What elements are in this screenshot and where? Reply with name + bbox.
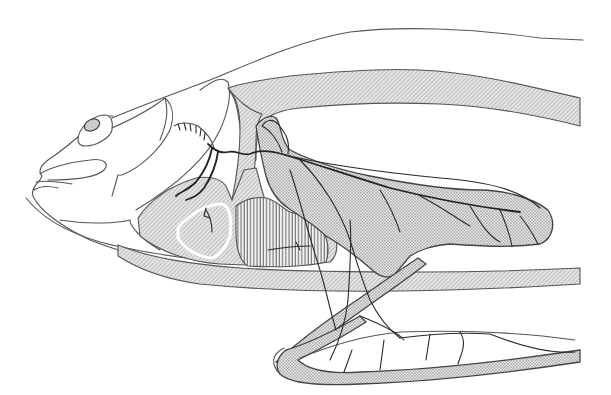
opercle-line — [160, 98, 167, 140]
coil-segments — [178, 123, 205, 140]
lower-lip — [34, 181, 72, 190]
anatomical-figure — [0, 0, 611, 395]
fish-anatomy-illustration — [0, 0, 611, 395]
upper-jaw — [40, 160, 106, 180]
snout-to-cheek — [112, 98, 172, 196]
